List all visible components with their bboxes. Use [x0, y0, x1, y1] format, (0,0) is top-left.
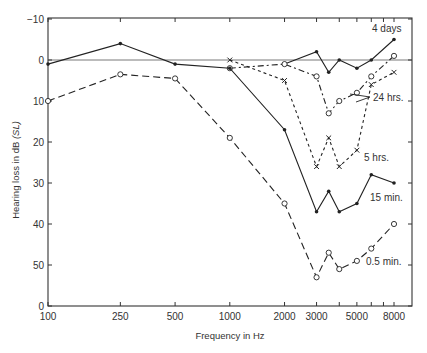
- y-axis-label: Hearing loss in dB (SL): [10, 121, 21, 219]
- x-tick-label: 5000: [346, 311, 369, 322]
- y-tick-label: 40: [33, 219, 45, 230]
- data-point: [46, 62, 50, 66]
- data-point: [337, 210, 341, 214]
- data-point: [314, 275, 319, 280]
- data-point: [392, 70, 397, 75]
- data-point: [355, 66, 359, 70]
- data-point: [327, 189, 331, 193]
- data-point: [392, 181, 396, 185]
- data-point: [315, 50, 319, 54]
- data-point: [369, 173, 373, 177]
- series-layer: [45, 38, 396, 280]
- data-point: [337, 58, 341, 62]
- data-point: [227, 135, 232, 140]
- y-tick-label: 0: [38, 55, 44, 66]
- data-point: [391, 53, 396, 58]
- data-point: [282, 62, 287, 67]
- data-point: [172, 76, 177, 81]
- data-point: [118, 72, 123, 77]
- y-tick-label: −10: [27, 14, 44, 25]
- y-tick-label: 50: [33, 260, 45, 271]
- label-0-5-min: 0.5 min.: [366, 256, 402, 267]
- data-point: [315, 210, 319, 214]
- data-point: [337, 164, 342, 169]
- x-tick-label: 500: [167, 311, 184, 322]
- data-point: [326, 250, 331, 255]
- x-tick-label: 2000: [273, 311, 296, 322]
- data-point: [369, 58, 373, 62]
- data-point: [391, 221, 396, 226]
- label-4-days: 4 days: [372, 23, 401, 34]
- data-point: [45, 98, 50, 103]
- axes: −100102030405001002505001000200030005000…: [10, 14, 412, 341]
- data-point: [355, 202, 359, 206]
- series-line: [285, 40, 394, 73]
- data-point: [282, 201, 287, 206]
- data-point: [173, 62, 177, 66]
- data-point: [369, 246, 374, 251]
- x-tick-label: 3000: [305, 311, 328, 322]
- data-point: [283, 128, 287, 132]
- data-point: [337, 267, 342, 272]
- data-point: [314, 74, 319, 79]
- data-point: [326, 136, 331, 141]
- data-point: [326, 111, 331, 116]
- data-point: [228, 66, 232, 70]
- x-tick-label: 8000: [383, 311, 406, 322]
- series-line: [48, 74, 394, 277]
- data-point: [337, 98, 342, 103]
- y-tick-label: 30: [33, 178, 45, 189]
- x-tick-label: 1000: [219, 311, 242, 322]
- data-point: [392, 38, 396, 42]
- data-point: [354, 258, 359, 263]
- x-axis-label: Frequency in Hz: [195, 330, 264, 341]
- data-point: [369, 74, 374, 79]
- x-tick-label: 250: [112, 311, 129, 322]
- x-tick-label: 100: [40, 311, 57, 322]
- data-point: [282, 78, 287, 83]
- series-4-days: [283, 38, 396, 74]
- series-0-5-min-: [45, 72, 396, 280]
- y-tick-label: 10: [33, 96, 45, 107]
- data-point: [119, 42, 123, 46]
- label-5-hrs: 5 hrs.: [364, 152, 389, 163]
- y-tick-label: 20: [33, 137, 45, 148]
- data-point: [327, 71, 331, 75]
- label-15-min: 15 min.: [370, 192, 403, 203]
- hearing-loss-chart: −100102030405001002505001000200030005000…: [0, 0, 427, 353]
- data-point: [354, 148, 359, 153]
- label-24-hrs: 24 hrs.: [373, 92, 404, 103]
- series-line: [230, 56, 394, 113]
- data-point: [314, 164, 319, 169]
